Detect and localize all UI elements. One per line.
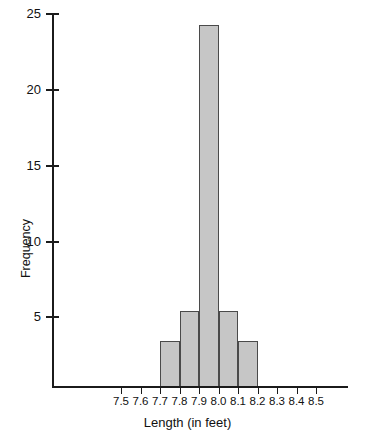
x-axis-tick-8.0: [219, 388, 220, 394]
x-axis-tick-8.2: [258, 388, 259, 394]
y-axis-tick-label-20: 20: [1, 83, 41, 96]
histogram-bar-7.7-7.8: [160, 341, 180, 386]
x-axis-tick-8.4: [297, 388, 298, 394]
x-axis-tick-7.7: [160, 388, 161, 394]
x-axis-tick-8.1: [238, 388, 239, 394]
y-axis-tick-10: [46, 241, 59, 243]
x-axis-tick-7.9: [199, 388, 200, 394]
y-axis-tick-20: [46, 89, 59, 91]
y-axis-tick-label-25: 25: [1, 7, 41, 20]
y-axis-tick-15: [46, 165, 59, 167]
histogram-bar-7.8-7.9: [180, 311, 200, 386]
y-axis-line: [52, 13, 54, 388]
histogram-bar-8.0-8.1: [219, 311, 239, 386]
histogram-chart: 25 20 15 10 5 Frequency 7.5 7.6 7.7 7.8 …: [0, 0, 375, 440]
y-axis-tick-label-15: 15: [1, 159, 41, 172]
y-axis-tick-label-5: 5: [1, 310, 41, 323]
x-axis-tick-8.3: [277, 388, 278, 394]
x-axis-tick-7.5: [121, 388, 122, 394]
x-axis-tick-7.8: [180, 388, 181, 394]
x-axis-tick-8.5: [316, 388, 317, 394]
histogram-bar-8.1-8.2: [238, 341, 258, 386]
x-axis-tick-7.6: [141, 388, 142, 394]
histogram-bar-7.9-8.0: [199, 25, 219, 386]
x-axis-title: Length (in feet): [0, 416, 375, 430]
x-axis-tick-label-8.5: 8.5: [299, 395, 333, 407]
x-axis-line: [52, 386, 348, 388]
y-axis-tick-25: [46, 13, 59, 15]
y-axis-tick-5: [46, 316, 59, 318]
y-axis-title: Frequency: [20, 199, 33, 299]
